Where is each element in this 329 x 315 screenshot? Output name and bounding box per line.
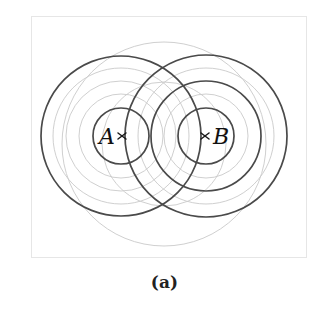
point-label-b: B xyxy=(212,124,229,149)
faint-circle-group xyxy=(53,42,274,246)
figure-container: A B (a) xyxy=(0,0,329,315)
cross-mark-b xyxy=(201,133,209,139)
figure-frame xyxy=(32,17,307,258)
point-label-a: A xyxy=(97,124,115,149)
figure-caption: (a) xyxy=(0,272,329,292)
faint-circle-midpoint-large xyxy=(62,42,266,246)
geometry-diagram: A B xyxy=(0,0,329,315)
